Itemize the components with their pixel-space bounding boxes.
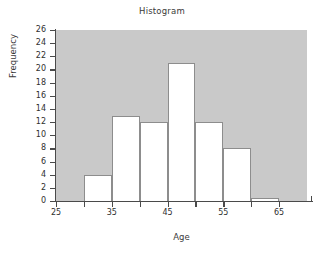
x-axis-end-tick <box>311 196 312 202</box>
bar-series <box>56 30 307 201</box>
y-axis-tick <box>50 135 55 136</box>
x-axis-tick <box>168 202 169 207</box>
page-title: Histogram <box>0 6 324 16</box>
histogram-bar <box>223 148 251 201</box>
y-axis-tick-label: 22 <box>28 51 46 60</box>
x-axis-tick <box>279 202 280 207</box>
histogram-bar <box>84 175 112 201</box>
y-axis-tick <box>50 122 55 123</box>
y-axis-tick-label: 16 <box>28 91 46 100</box>
y-axis-tick <box>50 109 55 110</box>
histogram-figure: Histogram 02468101214161820222426 253545… <box>0 0 324 260</box>
x-axis-tick-label: 55 <box>211 208 235 217</box>
x-axis-tick <box>195 202 196 207</box>
x-axis-tick <box>112 202 113 207</box>
histogram-bar <box>195 122 223 201</box>
y-axis-tick-label: 4 <box>28 170 46 179</box>
y-axis-tick <box>50 30 55 31</box>
y-axis-tick-label: 10 <box>28 130 46 139</box>
y-axis-tick <box>50 83 55 84</box>
y-axis-tick <box>50 188 55 189</box>
histogram-bar <box>140 122 168 201</box>
x-axis-tick-label: 45 <box>156 208 180 217</box>
y-axis-tick-label: 2 <box>28 183 46 192</box>
y-axis-tick <box>50 96 55 97</box>
y-axis-tick <box>50 162 55 163</box>
x-axis-tick <box>251 202 252 207</box>
x-axis-line <box>55 201 313 202</box>
x-axis-tick-label: 65 <box>267 208 291 217</box>
x-axis-tick <box>140 202 141 207</box>
y-axis-tick <box>50 201 55 202</box>
y-axis-tick-label: 20 <box>28 64 46 73</box>
y-axis-line <box>55 29 56 202</box>
y-axis-tick <box>50 148 55 149</box>
y-axis-tick <box>50 43 55 44</box>
x-axis-tick <box>223 202 224 207</box>
y-axis-tick-label: 8 <box>28 143 46 152</box>
y-axis-tick-label: 18 <box>28 78 46 87</box>
histogram-bar <box>112 116 140 202</box>
x-axis-title: Age <box>56 232 307 242</box>
plot-area <box>56 30 307 201</box>
x-axis-tick-label: 25 <box>44 208 68 217</box>
y-axis-tick <box>50 175 55 176</box>
y-axis-tick-label: 6 <box>28 157 46 166</box>
y-axis-tick <box>50 56 55 57</box>
x-axis-tick <box>56 202 57 207</box>
y-axis-tick-label: 24 <box>28 38 46 47</box>
x-axis-tick-label: 35 <box>100 208 124 217</box>
y-axis-title: Frequency <box>8 34 18 78</box>
y-axis-tick-label: 0 <box>28 196 46 205</box>
y-axis-tick-label: 14 <box>28 104 46 113</box>
y-axis-tick-label: 26 <box>28 25 46 34</box>
y-axis-tick <box>50 69 55 70</box>
y-axis-tick-label: 12 <box>28 117 46 126</box>
histogram-bar <box>168 63 196 201</box>
x-axis-tick <box>84 202 85 207</box>
